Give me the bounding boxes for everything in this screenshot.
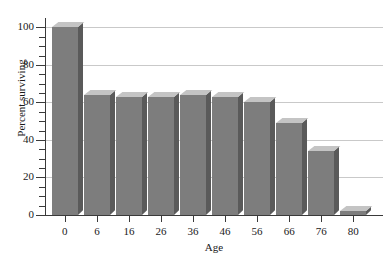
bar-side-face xyxy=(238,92,243,215)
bar-side-face xyxy=(142,92,147,215)
bar xyxy=(116,97,142,215)
y-axis-minor-tick xyxy=(39,37,45,38)
y-axis-minor-tick xyxy=(39,93,45,94)
bar-front-face xyxy=(52,27,78,215)
x-axis-tick xyxy=(161,216,162,222)
y-axis-minor-tick xyxy=(39,206,45,207)
bar-side-face xyxy=(110,90,115,215)
x-axis-tick xyxy=(193,216,194,222)
bar-side-face xyxy=(270,98,275,215)
bar xyxy=(52,27,78,215)
bar xyxy=(308,151,334,215)
bar-side-face xyxy=(78,23,83,215)
y-axis-tick-label: 100 xyxy=(4,21,34,32)
y-axis-minor-tick xyxy=(39,84,45,85)
bar-side-face xyxy=(206,90,211,215)
plot-area xyxy=(45,18,383,215)
y-axis-minor-tick xyxy=(39,168,45,169)
bar-front-face xyxy=(84,95,110,215)
bar-front-face xyxy=(212,97,238,215)
y-axis-major-tick xyxy=(36,65,45,66)
bar-side-face xyxy=(334,146,339,215)
x-axis-tick xyxy=(225,216,226,222)
y-axis-minor-tick xyxy=(39,187,45,188)
bar-side-face xyxy=(174,92,179,215)
x-axis-tick xyxy=(257,216,258,222)
y-axis-minor-tick xyxy=(39,74,45,75)
y-axis-major-tick xyxy=(36,140,45,141)
x-axis-line xyxy=(45,215,383,216)
y-axis-minor-tick xyxy=(39,121,45,122)
gridline xyxy=(45,65,383,66)
bar xyxy=(276,123,302,215)
bar xyxy=(180,95,206,215)
x-axis-tick xyxy=(65,216,66,222)
y-axis-major-tick xyxy=(36,102,45,103)
y-axis-tick-label: 0 xyxy=(4,209,34,220)
gridline xyxy=(45,27,383,28)
x-axis-tick xyxy=(353,216,354,222)
bar xyxy=(148,97,174,215)
bar-front-face xyxy=(180,95,206,215)
y-axis-minor-tick xyxy=(39,46,45,47)
x-axis-tick xyxy=(321,216,322,222)
x-axis-title: Age xyxy=(45,241,383,253)
y-axis-minor-tick xyxy=(39,131,45,132)
y-axis-major-tick xyxy=(36,27,45,28)
y-axis-line xyxy=(45,18,46,216)
bar-front-face xyxy=(244,102,270,215)
y-axis-major-tick xyxy=(36,215,45,216)
y-axis-major-tick xyxy=(36,177,45,178)
survivorship-bar-chart: 020406080100 Percent surviving Age 06162… xyxy=(0,0,388,267)
y-axis-tick-label: 20 xyxy=(4,171,34,182)
bar-side-face xyxy=(302,118,307,215)
y-axis-minor-tick xyxy=(39,56,45,57)
x-axis-tick xyxy=(289,216,290,222)
y-axis-title: Percent surviving xyxy=(15,33,27,163)
y-axis-minor-tick xyxy=(39,159,45,160)
x-axis-tick xyxy=(97,216,98,222)
y-axis-minor-tick xyxy=(39,196,45,197)
bar xyxy=(84,95,110,215)
bar-front-face xyxy=(308,151,334,215)
bar-front-face xyxy=(276,123,302,215)
x-axis-tick xyxy=(129,216,130,222)
y-axis-minor-tick xyxy=(39,112,45,113)
bar-front-face xyxy=(116,97,142,215)
x-axis-tick-label: 80 xyxy=(333,226,373,237)
bar xyxy=(244,102,270,215)
bar-front-face xyxy=(148,97,174,215)
y-axis-minor-tick xyxy=(39,149,45,150)
bar xyxy=(212,97,238,215)
